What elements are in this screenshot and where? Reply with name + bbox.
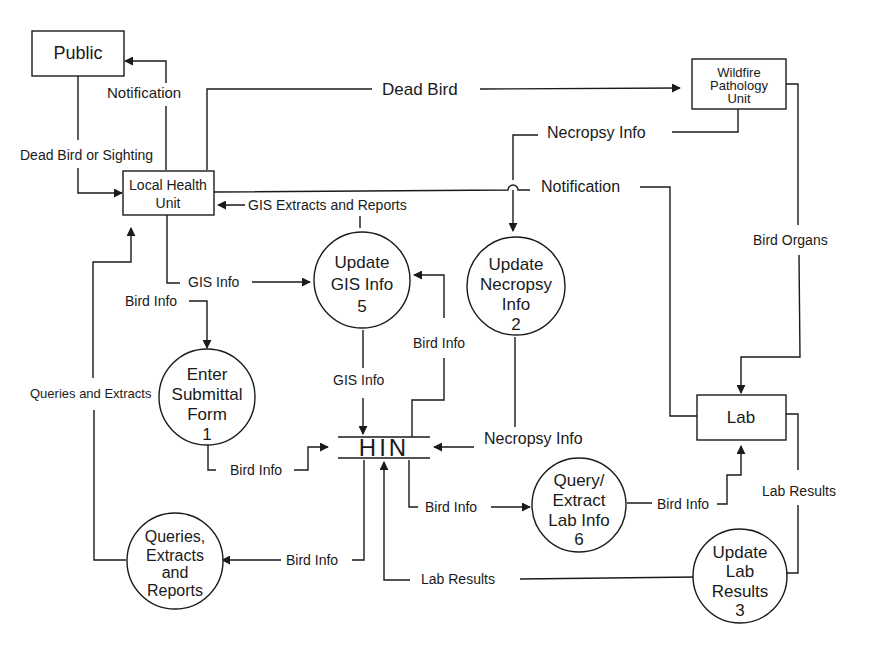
flow-bird-info-gis [412, 275, 444, 437]
label-bird-organs: Bird Organs [753, 232, 828, 248]
process-queries-extracts-reports[interactable]: Queries, Extracts and Reports [127, 513, 223, 609]
gis-label-1: Update [335, 253, 390, 272]
entity-local-health-unit[interactable]: Local Health Unit [123, 171, 214, 215]
label-gis-info-hin: GIS Info [333, 372, 385, 388]
enter-label-2: Submittal [172, 385, 243, 404]
label-queries-extracts: Queries and Extracts [30, 386, 152, 401]
enter-label-3: Form [187, 405, 227, 424]
lab-label: Lab [727, 408, 755, 427]
necropsy-label-1: Update [489, 255, 544, 274]
label-bird-info-lab: Bird Info [657, 496, 709, 512]
label-notification-lab: Notification [541, 178, 620, 195]
entity-public[interactable]: Public [32, 31, 124, 76]
qr-label-3: and [162, 564, 189, 581]
process-update-necropsy-info[interactable]: Update Necropsy Info 2 [467, 237, 565, 335]
updlab-label-1: Update [713, 543, 768, 562]
label-dead-bird-or-sighting: Dead Bird or Sighting [20, 147, 153, 163]
lhu-label-line1: Local Health [129, 177, 207, 193]
label-lab-results-hin: Lab Results [421, 571, 495, 587]
label-notification-public: Notification [107, 84, 181, 101]
qr-label-2: Extracts [146, 547, 204, 564]
data-flow-diagram: Public Local Health Unit Wildfire Pathol… [0, 0, 874, 647]
label-bird-info-form-hin: Bird Info [230, 462, 282, 478]
necropsy-label-4: 2 [511, 315, 520, 334]
datastore-hin[interactable]: HIN [338, 434, 430, 461]
updlab-label-2: Lab [726, 562, 754, 581]
process-update-gis-info[interactable]: Update GIS Info 5 [314, 232, 410, 328]
updlab-label-4: 3 [735, 601, 744, 620]
query-label-1: Query/ [553, 471, 604, 490]
gis-label-3: 5 [357, 297, 366, 316]
necropsy-label-3: Info [502, 295, 530, 314]
label-bird-info-query: Bird Info [425, 499, 477, 515]
updlab-label-3: Results [712, 582, 769, 601]
entity-wildfire-pathology-unit[interactable]: Wildfire Pathology Unit [692, 59, 786, 109]
flow-bird-info-enter [189, 301, 207, 348]
qr-label-1: Queries, [145, 528, 205, 545]
flow-gis-info-in [167, 215, 310, 283]
enter-label-4: 1 [202, 425, 211, 444]
label-necropsy-info-hin: Necropsy Info [484, 430, 583, 447]
query-label-3: Lab Info [548, 511, 609, 530]
process-update-lab-results[interactable]: Update Lab Results 3 [693, 529, 787, 623]
label-bird-info-reports: Bird Info [286, 552, 338, 568]
label-necropsy-info-top: Necropsy Info [547, 124, 646, 141]
wildfire-label-line3: Unit [727, 91, 751, 106]
label-dead-bird: Dead Bird [382, 80, 458, 99]
query-label-4: 6 [574, 530, 583, 549]
process-query-extract-lab-info[interactable]: Query/ Extract Lab Info 6 [532, 458, 626, 552]
lhu-label-line2: Unit [156, 195, 181, 211]
label-bird-info-gis: Bird Info [413, 335, 465, 351]
process-enter-submittal-form[interactable]: Enter Submittal Form 1 [159, 349, 255, 445]
label-gis-extracts: GIS Extracts and Reports [248, 197, 407, 213]
qr-label-4: Reports [147, 582, 203, 599]
label-gis-info-in: GIS Info [188, 274, 240, 290]
label-lab-results-right: Lab Results [762, 483, 836, 499]
necropsy-label-2: Necropsy [480, 275, 552, 294]
gis-label-2: GIS Info [331, 275, 393, 294]
label-bird-info-enter: Bird Info [125, 293, 177, 309]
query-label-2: Extract [553, 491, 606, 510]
entity-public-label: Public [53, 43, 102, 63]
flow-notification-lab [214, 185, 697, 416]
enter-label-1: Enter [187, 365, 228, 384]
hin-label: HIN [359, 434, 409, 461]
entity-lab[interactable]: Lab [697, 395, 786, 440]
